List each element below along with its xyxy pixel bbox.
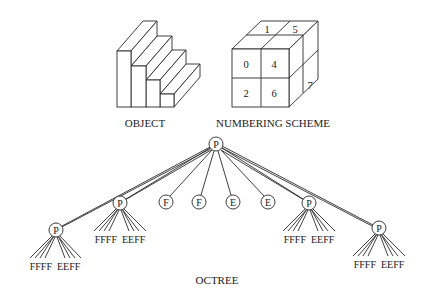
octree-child-2: F bbox=[159, 195, 173, 209]
step-3-front bbox=[146, 80, 160, 107]
octree-child-6: P FFFF EEFF bbox=[283, 196, 335, 245]
octree-child-5: E bbox=[261, 195, 275, 209]
octree-child-0: P FFFF EEFF bbox=[30, 223, 81, 272]
octree-child-7: P FFFF EEFF bbox=[353, 221, 405, 270]
root-label: P bbox=[213, 139, 219, 150]
cell-label-5: 5 bbox=[292, 24, 297, 35]
cell-label-2: 2 bbox=[243, 88, 248, 99]
child-1-leaves: FFFF EEFF bbox=[95, 234, 146, 245]
octree-edges bbox=[60, 146, 374, 228]
octree-child-3: F bbox=[192, 195, 206, 209]
child-0-leaves: FFFF EEFF bbox=[30, 261, 81, 272]
octree-child-1: P FFFF EEFF bbox=[94, 196, 146, 245]
cell-label-0: 0 bbox=[243, 59, 248, 70]
step-4-front bbox=[160, 94, 174, 107]
child-2-label: F bbox=[163, 197, 169, 208]
child-0-label: P bbox=[53, 225, 59, 236]
child-5-label: E bbox=[265, 197, 271, 208]
cell-label-4: 4 bbox=[271, 59, 277, 70]
step-1-front bbox=[117, 51, 131, 107]
step-2-front bbox=[131, 66, 146, 107]
child-3-label: F bbox=[196, 197, 202, 208]
figure-svg: OBJECT 0 4 2 6 1 5 7 NUMBERING SCHEME bbox=[0, 0, 432, 299]
object-caption: OBJECT bbox=[125, 117, 166, 129]
staircase-object bbox=[117, 21, 200, 107]
cell-label-7: 7 bbox=[307, 80, 312, 91]
child-6-label: P bbox=[306, 198, 312, 209]
child-4-label: E bbox=[230, 197, 236, 208]
octree-root-node: P bbox=[209, 137, 223, 151]
octree-child-4: E bbox=[226, 195, 240, 209]
cell-label-6: 6 bbox=[271, 88, 276, 99]
child-7-label: P bbox=[376, 223, 382, 234]
octree-caption: OCTREE bbox=[196, 274, 239, 286]
numbering-caption: NUMBERING SCHEME bbox=[216, 117, 330, 129]
octree-figure: OBJECT 0 4 2 6 1 5 7 NUMBERING SCHEME bbox=[0, 0, 432, 299]
child-7-leaves: FFFF EEFF bbox=[354, 259, 405, 270]
child-1-label: P bbox=[117, 198, 123, 209]
child-6-leaves: FFFF EEFF bbox=[284, 234, 335, 245]
cell-label-1: 1 bbox=[264, 24, 269, 35]
